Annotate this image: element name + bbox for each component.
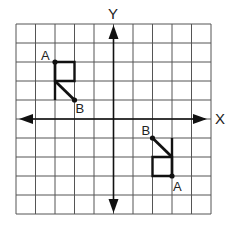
- point-a-dot: [52, 59, 57, 64]
- diagonal-line: [153, 138, 173, 157]
- figure-image: AB: [142, 123, 183, 194]
- point-a-dot: [169, 173, 174, 178]
- point-b-dot: [150, 135, 155, 140]
- x-axis-right-arrow-icon: [193, 114, 207, 124]
- figure-original: AB: [41, 48, 84, 116]
- point-a-label: A: [173, 179, 182, 194]
- square-shape: [153, 157, 173, 176]
- y-axis-up-arrow-icon: [109, 25, 119, 39]
- square-shape: [55, 62, 75, 81]
- point-b-label: B: [142, 123, 151, 138]
- coordinate-grid-diagram: ABAB X Y: [0, 0, 232, 225]
- figures: ABAB: [41, 48, 182, 194]
- diagonal-line: [55, 81, 75, 100]
- x-axis-left-arrow-icon: [19, 114, 33, 124]
- point-a-label: A: [41, 48, 50, 63]
- y-axis-down-arrow-icon: [109, 199, 119, 213]
- x-axis-label: X: [215, 110, 225, 127]
- point-b-label: B: [76, 101, 85, 116]
- y-axis-label: Y: [108, 5, 118, 22]
